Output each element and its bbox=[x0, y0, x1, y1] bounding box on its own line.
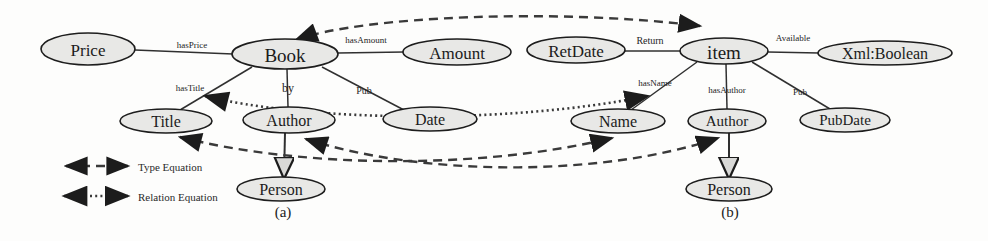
node-name[interactable]: Name bbox=[571, 109, 665, 133]
node-person-b-label: Person bbox=[707, 181, 751, 198]
caption-b: (b) bbox=[721, 204, 739, 221]
node-title-label: Title bbox=[151, 113, 181, 130]
node-item-label: item bbox=[707, 42, 741, 63]
node-amount[interactable]: Amount bbox=[403, 39, 511, 65]
legend: Type Equation Relation Equation bbox=[64, 161, 218, 203]
edge-price-book bbox=[135, 50, 233, 54]
node-author-a[interactable]: Author bbox=[243, 107, 335, 133]
figure-canvas: item --> hasName --> Name --> Author(b) … bbox=[0, 0, 988, 241]
node-retdate[interactable]: RetDate bbox=[527, 37, 625, 63]
node-person-b[interactable]: Person bbox=[686, 177, 772, 201]
node-author-a-label: Author bbox=[266, 112, 312, 129]
node-price-label: Price bbox=[71, 41, 106, 60]
node-author-b-label: Author bbox=[706, 113, 749, 129]
diagram-b: RetDate item Xml:Boolean Name Author Pub… bbox=[527, 33, 952, 221]
edge-label-hastitle: hasTitle bbox=[176, 83, 205, 93]
edge-label-hasauthor: hasAuthor bbox=[708, 85, 746, 95]
type-equation-title-name bbox=[180, 137, 612, 161]
caption-a: (a) bbox=[275, 204, 292, 221]
node-person-a[interactable]: Person bbox=[237, 177, 325, 201]
edge-label-hasamount: hasAmount bbox=[345, 35, 387, 45]
edge-label-hasprice: hasPrice bbox=[177, 40, 208, 50]
node-date-label: Date bbox=[415, 111, 445, 128]
node-book-label: Book bbox=[264, 45, 306, 66]
edge-book-amount bbox=[338, 52, 404, 53]
node-author-b[interactable]: Author bbox=[688, 109, 766, 133]
edge-item-pubdate bbox=[752, 62, 830, 109]
node-pubdate[interactable]: PubDate bbox=[800, 108, 890, 132]
node-pubdate-label: PubDate bbox=[819, 112, 871, 128]
node-title[interactable]: Title bbox=[120, 109, 212, 133]
type-equation-author-author bbox=[306, 138, 718, 167]
edge-label-return: Return bbox=[636, 35, 663, 46]
legend-type-equation-label: Type Equation bbox=[138, 161, 203, 173]
node-xmlboolean-label: Xml:Boolean bbox=[842, 45, 928, 62]
node-name-label: Name bbox=[599, 113, 637, 130]
node-item[interactable]: item bbox=[680, 38, 768, 64]
edge-label-pub-a: Pub bbox=[356, 85, 372, 96]
edge-label-hasname: hasName bbox=[638, 78, 672, 88]
node-retdate-label: RetDate bbox=[548, 42, 604, 61]
edge-item-xmlboolean bbox=[768, 52, 819, 53]
node-book[interactable]: Book bbox=[232, 39, 338, 69]
node-date[interactable]: Date bbox=[383, 107, 477, 131]
legend-relation-equation-label: Relation Equation bbox=[138, 191, 218, 203]
node-xmlboolean[interactable]: Xml:Boolean bbox=[818, 41, 952, 65]
ontology-mapping-diagram: item --> hasName --> Name --> Author(b) … bbox=[0, 0, 988, 241]
node-price[interactable]: Price bbox=[41, 33, 135, 65]
node-amount-label: Amount bbox=[429, 44, 485, 63]
node-person-a-label: Person bbox=[259, 181, 303, 198]
edge-label-available: Available bbox=[776, 33, 810, 43]
edge-label-pub-b: Pub bbox=[793, 87, 808, 97]
edge-label-by: by bbox=[282, 81, 294, 95]
